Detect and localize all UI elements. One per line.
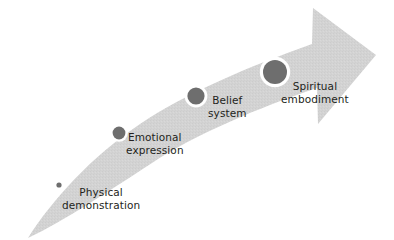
stage-label-line: Spiritual bbox=[281, 80, 349, 93]
stage-marker-3 bbox=[185, 85, 208, 108]
stage-label-line: embodiment bbox=[281, 93, 349, 106]
stage-label-physical-demonstration: Physical demonstration bbox=[62, 186, 140, 211]
stage-label-line: Physical bbox=[62, 186, 140, 199]
stage-label-line: Belief bbox=[208, 94, 247, 107]
progression-diagram: Physical demonstration Emotional express… bbox=[0, 0, 394, 240]
marker-dot-2 bbox=[113, 127, 126, 140]
arrow-canvas bbox=[0, 0, 394, 240]
stage-label-line: system bbox=[208, 107, 247, 120]
stage-label-line: demonstration bbox=[62, 199, 140, 212]
marker-dot-3 bbox=[187, 87, 204, 104]
stage-label-belief-system: Belief system bbox=[208, 94, 247, 119]
marker-dot-1 bbox=[56, 182, 61, 187]
stage-label-spiritual-embodiment: Spiritual embodiment bbox=[281, 80, 349, 105]
stage-label-line: Emotional bbox=[126, 131, 184, 144]
stage-label-emotional-expression: Emotional expression bbox=[126, 131, 184, 156]
stage-label-line: expression bbox=[126, 144, 184, 157]
